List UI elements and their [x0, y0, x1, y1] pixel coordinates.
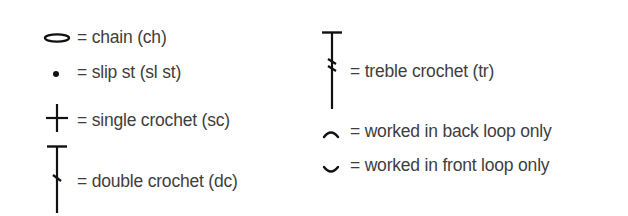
legend-label-back-loop: = worked in back loop only	[350, 123, 552, 141]
legend-label-chain: = chain (ch)	[77, 29, 167, 47]
legend-label-double-crochet: = double crochet (dc)	[77, 173, 238, 191]
chain-oval-icon	[43, 32, 71, 44]
single-crochet-cross-icon	[45, 104, 69, 134]
front-loop-arc-icon	[322, 165, 340, 175]
legend-label-single-crochet: = single crochet (sc)	[77, 112, 230, 130]
back-loop-arc-icon	[322, 129, 340, 139]
slip-stitch-dot-icon	[52, 70, 60, 78]
double-crochet-icon	[45, 145, 69, 215]
legend-label-slip-stitch: = slip st (sl st)	[77, 64, 181, 82]
legend-label-front-loop: = worked in front loop only	[350, 157, 549, 175]
treble-crochet-icon	[320, 31, 344, 111]
legend-label-treble-crochet: = treble crochet (tr)	[350, 63, 494, 81]
crochet-symbol-legend: = chain (ch) = slip st (sl st) = single …	[0, 0, 628, 216]
